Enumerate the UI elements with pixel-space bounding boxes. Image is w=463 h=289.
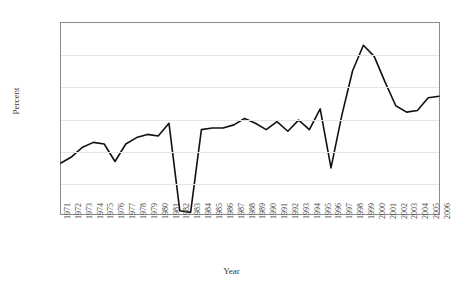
x-axis-tick-labels: 1971197219731974197519761977197819791980… xyxy=(0,0,463,289)
x-axis-tick-label: 1981 xyxy=(172,203,181,219)
x-axis-tick-label: 1997 xyxy=(345,203,354,219)
x-axis-tick-label: 1992 xyxy=(291,203,300,219)
x-axis-tick-label: 1998 xyxy=(356,203,365,219)
x-axis-tick-label: 1978 xyxy=(139,203,148,219)
x-axis-tick-label: 1983 xyxy=(193,203,202,219)
x-axis-tick-label: 2000 xyxy=(378,203,387,219)
x-axis-tick-label: 1979 xyxy=(150,203,159,219)
chart-figure: 0%20%40%60%80%100%120% Percent 197119721… xyxy=(0,0,463,289)
x-axis-tick-label: 1999 xyxy=(367,203,376,219)
x-axis-tick-label: 1975 xyxy=(106,203,115,219)
x-axis-tick-label: 1988 xyxy=(248,203,257,219)
x-axis-tick-label: 1993 xyxy=(302,203,311,219)
x-axis-tick-label: 1976 xyxy=(117,203,126,219)
x-axis-tick-label: 1990 xyxy=(269,203,278,219)
x-axis-title: Year xyxy=(0,266,463,276)
x-axis-tick-label: 2004 xyxy=(421,203,430,219)
x-axis-tick-label: 2002 xyxy=(400,203,409,219)
x-axis-tick-label: 2003 xyxy=(410,203,419,219)
x-axis-tick-label: 1982 xyxy=(182,203,191,219)
x-axis-tick-label: 1986 xyxy=(226,203,235,219)
x-axis-tick-label: 1994 xyxy=(313,203,322,219)
x-axis-tick-label: 2001 xyxy=(389,203,398,219)
x-axis-tick-label: 1971 xyxy=(63,203,72,219)
x-axis-tick-label: 1974 xyxy=(96,203,105,219)
x-axis-tick-label: 1989 xyxy=(258,203,267,219)
x-axis-tick-label: 1985 xyxy=(215,203,224,219)
x-axis-tick-label: 2005 xyxy=(432,203,441,219)
x-axis-tick-label: 1984 xyxy=(204,203,213,219)
x-axis-tick-label: 1973 xyxy=(85,203,94,219)
x-axis-tick-label: 2006 xyxy=(443,203,452,219)
x-axis-tick-label: 1991 xyxy=(280,203,289,219)
x-axis-tick-label: 1980 xyxy=(161,203,170,219)
x-axis-tick-label: 1995 xyxy=(324,203,333,219)
x-axis-tick-label: 1996 xyxy=(334,203,343,219)
x-axis-tick-label: 1977 xyxy=(128,203,137,219)
x-axis-tick-label: 1987 xyxy=(237,203,246,219)
x-axis-tick-label: 1972 xyxy=(74,203,83,219)
